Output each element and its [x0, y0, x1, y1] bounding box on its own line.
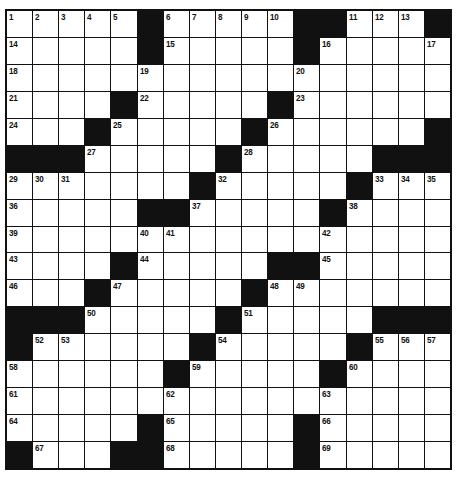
- answer-cell[interactable]: [268, 65, 293, 91]
- answer-cell[interactable]: 27: [85, 146, 110, 172]
- answer-cell[interactable]: [294, 200, 319, 226]
- answer-cell[interactable]: [242, 415, 267, 441]
- answer-cell[interactable]: [347, 442, 372, 468]
- answer-cell[interactable]: [347, 146, 372, 172]
- answer-cell[interactable]: 23: [294, 92, 319, 118]
- answer-cell[interactable]: [268, 200, 293, 226]
- answer-cell[interactable]: [138, 388, 163, 414]
- answer-cell[interactable]: [138, 334, 163, 360]
- answer-cell[interactable]: [85, 92, 110, 118]
- answer-cell[interactable]: 64: [7, 415, 32, 441]
- answer-cell[interactable]: [111, 361, 136, 387]
- answer-cell[interactable]: [85, 361, 110, 387]
- answer-cell[interactable]: 1: [7, 11, 32, 37]
- answer-cell[interactable]: [59, 38, 84, 64]
- answer-cell[interactable]: [347, 227, 372, 253]
- answer-cell[interactable]: [190, 119, 215, 145]
- answer-cell[interactable]: [190, 442, 215, 468]
- answer-cell[interactable]: [425, 361, 450, 387]
- answer-cell[interactable]: 2: [33, 11, 58, 37]
- answer-cell[interactable]: [320, 173, 345, 199]
- answer-cell[interactable]: 8: [216, 11, 241, 37]
- answer-cell[interactable]: [111, 415, 136, 441]
- answer-cell[interactable]: 33: [373, 173, 398, 199]
- answer-cell[interactable]: 50: [85, 307, 110, 333]
- answer-cell[interactable]: [190, 38, 215, 64]
- answer-cell[interactable]: [425, 442, 450, 468]
- answer-cell[interactable]: [190, 307, 215, 333]
- answer-cell[interactable]: 42: [320, 227, 345, 253]
- answer-cell[interactable]: [425, 253, 450, 279]
- answer-cell[interactable]: [373, 361, 398, 387]
- answer-cell[interactable]: [190, 65, 215, 91]
- answer-cell[interactable]: [85, 334, 110, 360]
- answer-cell[interactable]: 41: [164, 227, 189, 253]
- answer-cell[interactable]: 67: [33, 442, 58, 468]
- answer-cell[interactable]: [425, 200, 450, 226]
- answer-cell[interactable]: 18: [7, 65, 32, 91]
- answer-cell[interactable]: [33, 38, 58, 64]
- answer-cell[interactable]: [164, 65, 189, 91]
- answer-cell[interactable]: [190, 388, 215, 414]
- answer-cell[interactable]: [216, 200, 241, 226]
- answer-cell[interactable]: [216, 119, 241, 145]
- answer-cell[interactable]: [33, 227, 58, 253]
- answer-cell[interactable]: [320, 146, 345, 172]
- answer-cell[interactable]: [347, 38, 372, 64]
- answer-cell[interactable]: [268, 146, 293, 172]
- answer-cell[interactable]: 61: [7, 388, 32, 414]
- answer-cell[interactable]: [347, 92, 372, 118]
- answer-cell[interactable]: 22: [138, 92, 163, 118]
- answer-cell[interactable]: 29: [7, 173, 32, 199]
- answer-cell[interactable]: [111, 307, 136, 333]
- answer-cell[interactable]: 51: [242, 307, 267, 333]
- answer-cell[interactable]: [294, 334, 319, 360]
- answer-cell[interactable]: [268, 415, 293, 441]
- answer-cell[interactable]: 52: [33, 334, 58, 360]
- answer-cell[interactable]: 37: [190, 200, 215, 226]
- answer-cell[interactable]: [347, 388, 372, 414]
- answer-cell[interactable]: [111, 146, 136, 172]
- answer-cell[interactable]: 58: [7, 361, 32, 387]
- answer-cell[interactable]: 36: [7, 200, 32, 226]
- answer-cell[interactable]: [164, 307, 189, 333]
- answer-cell[interactable]: [399, 253, 424, 279]
- answer-cell[interactable]: [138, 307, 163, 333]
- answer-cell[interactable]: [59, 280, 84, 306]
- answer-cell[interactable]: [59, 227, 84, 253]
- answer-cell[interactable]: [85, 415, 110, 441]
- answer-cell[interactable]: [59, 253, 84, 279]
- answer-cell[interactable]: [216, 415, 241, 441]
- answer-cell[interactable]: [190, 415, 215, 441]
- answer-cell[interactable]: [85, 388, 110, 414]
- answer-cell[interactable]: [111, 388, 136, 414]
- answer-cell[interactable]: [399, 92, 424, 118]
- answer-cell[interactable]: [399, 38, 424, 64]
- answer-cell[interactable]: [59, 92, 84, 118]
- answer-cell[interactable]: [164, 146, 189, 172]
- answer-cell[interactable]: [320, 280, 345, 306]
- answer-cell[interactable]: 38: [347, 200, 372, 226]
- answer-cell[interactable]: 54: [216, 334, 241, 360]
- answer-cell[interactable]: [216, 388, 241, 414]
- answer-cell[interactable]: 55: [373, 334, 398, 360]
- answer-cell[interactable]: [242, 388, 267, 414]
- answer-cell[interactable]: [216, 280, 241, 306]
- answer-cell[interactable]: [425, 388, 450, 414]
- answer-cell[interactable]: [190, 253, 215, 279]
- answer-cell[interactable]: 30: [33, 173, 58, 199]
- answer-cell[interactable]: 46: [7, 280, 32, 306]
- answer-cell[interactable]: 6: [164, 11, 189, 37]
- answer-cell[interactable]: [33, 415, 58, 441]
- answer-cell[interactable]: [33, 361, 58, 387]
- answer-cell[interactable]: 31: [59, 173, 84, 199]
- answer-cell[interactable]: [320, 119, 345, 145]
- answer-cell[interactable]: [85, 253, 110, 279]
- answer-cell[interactable]: [216, 361, 241, 387]
- answer-cell[interactable]: 35: [425, 173, 450, 199]
- answer-cell[interactable]: [425, 65, 450, 91]
- answer-cell[interactable]: [373, 415, 398, 441]
- answer-cell[interactable]: [425, 227, 450, 253]
- answer-cell[interactable]: [33, 253, 58, 279]
- answer-cell[interactable]: [373, 442, 398, 468]
